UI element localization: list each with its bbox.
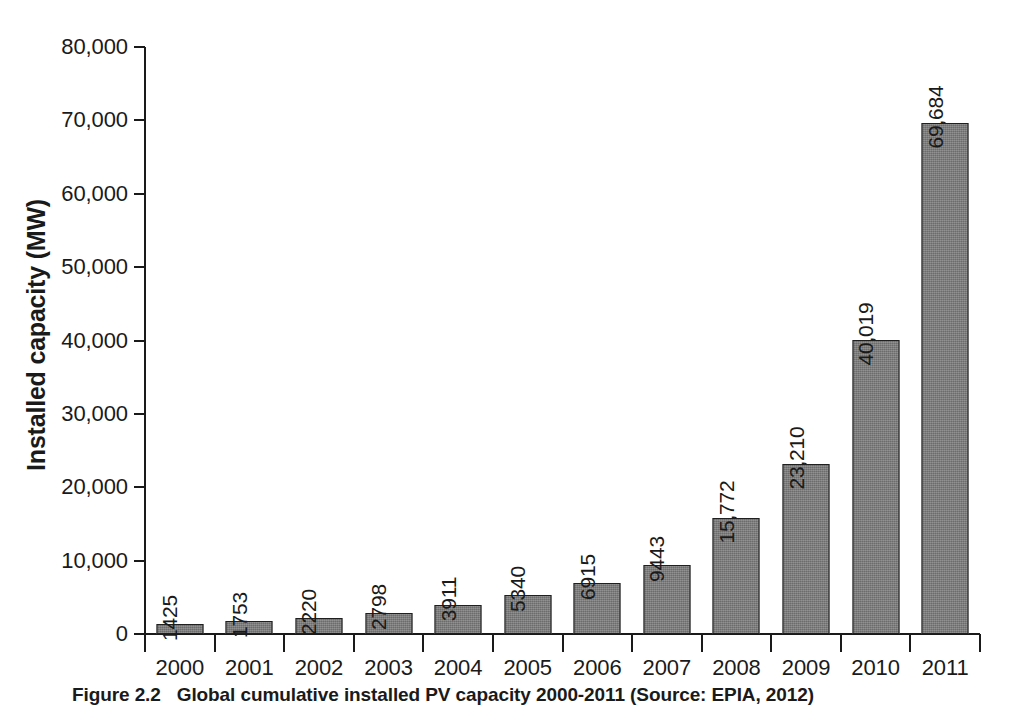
bar-slot: 94432007: [632, 47, 702, 634]
bar-slot: 69,6842011: [910, 47, 980, 634]
x-axis-category-label: 2004: [434, 655, 483, 681]
bar[interactable]: 1425: [156, 624, 203, 634]
x-axis-tick: [631, 634, 633, 652]
y-axis-tick-label: 0: [116, 621, 128, 647]
bar-value-label: 1753: [228, 592, 249, 638]
x-axis-category-label: 2001: [225, 655, 274, 681]
bar-value-label: 5340: [507, 566, 528, 612]
x-axis-category-label: 2003: [364, 655, 413, 681]
y-axis-tick-label: 20,000: [61, 474, 128, 500]
bar-slot: 39112004: [423, 47, 493, 634]
figure-caption: Figure 2.2Global cumulative installed PV…: [72, 684, 972, 706]
y-axis-tick-label: 10,000: [61, 548, 128, 574]
y-axis-title: Installed capacity (MW): [14, 15, 58, 655]
y-axis-tick: [134, 340, 145, 342]
y-axis-tick-label: 60,000: [61, 181, 128, 207]
bar[interactable]: 2798: [365, 613, 412, 634]
bar-value-label: 23,210: [785, 426, 806, 489]
bar[interactable]: 1753: [226, 621, 273, 634]
bar-slot: 22202002: [284, 47, 354, 634]
caption-number: Figure 2.2: [72, 684, 161, 705]
x-axis-tick: [353, 634, 355, 652]
x-axis-tick: [701, 634, 703, 652]
bar-slot: 23,2102009: [771, 47, 841, 634]
y-axis-tick-label: 70,000: [61, 107, 128, 133]
y-axis-tick: [134, 119, 145, 121]
bar[interactable]: 6915: [574, 583, 621, 634]
x-axis-tick: [214, 634, 216, 652]
x-axis-tick: [144, 634, 146, 652]
bar-value-label: 2220: [298, 589, 319, 635]
bar-value-label: 2798: [368, 585, 389, 631]
bar[interactable]: 40,019: [852, 340, 899, 634]
bar-slot: 27982003: [354, 47, 424, 634]
bar-value-label: 1425: [159, 595, 180, 641]
bar-slot: 40,0192010: [841, 47, 911, 634]
bar[interactable]: 9443: [643, 565, 690, 634]
bar-slot: 14252000: [145, 47, 215, 634]
bar-value-label: 40,019: [855, 303, 876, 366]
y-axis-tick: [134, 413, 145, 415]
x-axis-tick: [840, 634, 842, 652]
x-axis-category-label: 2006: [573, 655, 622, 681]
bar[interactable]: 5340: [504, 595, 551, 634]
x-axis-tick: [492, 634, 494, 652]
y-axis-tick: [134, 560, 145, 562]
bar[interactable]: 69,684: [922, 123, 969, 634]
x-axis-category-label: 2007: [643, 655, 692, 681]
caption-text: Global cumulative installed PV capacity …: [177, 684, 814, 705]
y-axis-tick: [134, 46, 145, 48]
bar[interactable]: 3911: [435, 605, 482, 634]
y-axis-tick-label: 40,000: [61, 328, 128, 354]
x-axis-category-label: 2009: [782, 655, 831, 681]
bar-value-label: 9443: [646, 536, 667, 582]
x-axis-category-label: 2008: [712, 655, 761, 681]
y-axis-tick: [134, 266, 145, 268]
x-axis-tick: [283, 634, 285, 652]
bar-slot: 69152006: [563, 47, 633, 634]
bar-value-label: 69,684: [924, 85, 945, 148]
x-axis-tick: [770, 634, 772, 652]
y-axis-tick-label: 50,000: [61, 254, 128, 280]
y-axis-tick-label: 30,000: [61, 401, 128, 427]
bar[interactable]: 2220: [295, 618, 342, 634]
bar-slot: 53402005: [493, 47, 563, 634]
bar[interactable]: 23,210: [783, 464, 830, 634]
y-axis-tick-label: 80,000: [61, 34, 128, 60]
bar-slot: 17532001: [215, 47, 285, 634]
x-axis-category-label: 2002: [295, 655, 344, 681]
y-axis-tick: [134, 193, 145, 195]
x-axis-category-label: 2005: [503, 655, 552, 681]
bar-slot: 15,7722008: [702, 47, 772, 634]
x-axis-tick: [562, 634, 564, 652]
bar[interactable]: 15,772: [713, 518, 760, 634]
x-axis-tick: [422, 634, 424, 652]
x-axis-tick: [909, 634, 911, 652]
bar-value-label: 3911: [437, 577, 458, 621]
bar-value-label: 6915: [576, 554, 597, 600]
x-axis-category-label: 2010: [851, 655, 900, 681]
plot-area: 80,00070,00060,00050,00040,00030,00020,0…: [145, 47, 980, 634]
y-axis-tick: [134, 486, 145, 488]
x-axis-category-label: 2000: [156, 655, 205, 681]
x-axis-tick: [979, 634, 981, 652]
bar-value-label: 15,772: [715, 481, 736, 544]
x-axis-category-label: 2011: [922, 655, 969, 681]
